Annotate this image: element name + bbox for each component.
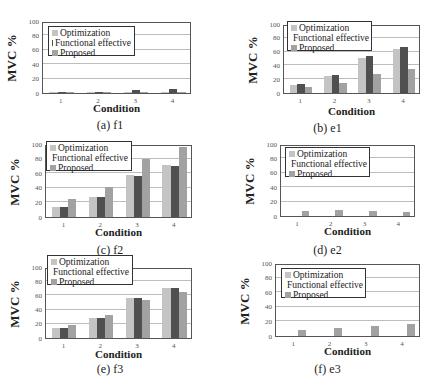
bar	[339, 83, 347, 93]
bar	[179, 292, 187, 338]
y-tick-label: 80	[24, 156, 42, 163]
legend-label: Optimization	[59, 257, 109, 267]
y-tick-label: 40	[21, 62, 39, 69]
y-tick-label: 20	[254, 319, 272, 326]
y-tick-label: 60	[262, 49, 280, 56]
bar	[97, 197, 105, 217]
legend-swatch-icon	[285, 272, 291, 278]
bar	[177, 92, 185, 94]
gridline	[43, 78, 190, 79]
bar	[305, 87, 313, 93]
y-tick-label: 0	[24, 215, 42, 222]
legend-item: Proposed	[50, 163, 128, 173]
legend-label: Functional effective	[287, 280, 363, 290]
bar	[87, 92, 95, 94]
legend-label: Proposed	[59, 277, 94, 287]
bar	[97, 318, 105, 338]
legend-swatch-icon	[50, 145, 56, 151]
legend: OptimizationFunctional effectiveProposed	[281, 268, 366, 298]
bar	[89, 197, 97, 217]
y-tick-label: 60	[21, 47, 39, 54]
legend-item: Optimization	[285, 270, 362, 280]
legend: OptimizationFunctional effectiveProposed	[47, 255, 133, 285]
gridline	[276, 306, 419, 307]
y-tick-label: 20	[259, 199, 277, 206]
bar	[134, 176, 142, 217]
y-tick-label: 60	[24, 293, 42, 300]
bar	[66, 92, 74, 94]
chart-caption: (d) e2	[218, 243, 437, 258]
legend-label: Optimization	[297, 149, 347, 159]
bar	[68, 325, 76, 338]
legend-swatch-icon	[52, 40, 53, 46]
legend-item: Optimization	[52, 28, 131, 38]
x-axis-label: Condition	[283, 105, 420, 117]
legend-label: Functional effective	[55, 38, 131, 48]
bar	[60, 328, 68, 338]
legend-swatch-icon	[291, 45, 297, 51]
bar	[179, 147, 187, 217]
y-tick-label: 20	[21, 76, 39, 83]
bar	[371, 326, 379, 336]
y-tick-label: 80	[254, 275, 272, 282]
y-tick-label: 100	[259, 142, 277, 149]
y-tick-label: 80	[21, 33, 39, 40]
bar	[142, 300, 150, 338]
legend-label: Optimization	[293, 270, 343, 280]
y-tick-label: 20	[262, 77, 280, 84]
bar	[335, 210, 342, 216]
bar	[52, 328, 60, 338]
bar	[302, 211, 309, 216]
bar	[297, 84, 305, 93]
y-tick-label: 100	[24, 142, 42, 149]
bar	[103, 92, 111, 94]
x-tick-label: 1	[294, 97, 306, 105]
y-tick-label: 100	[21, 19, 39, 26]
y-tick-label: 60	[254, 290, 272, 297]
y-tick-label: 60	[24, 171, 42, 178]
legend-item: Functional effective	[285, 280, 362, 290]
legend-item: Proposed	[52, 48, 131, 58]
bar	[332, 75, 340, 93]
y-axis-label: MVC %	[7, 274, 23, 334]
legend-label: Optimization	[60, 28, 110, 38]
legend-label: Proposed	[58, 163, 93, 173]
y-tick-label: 80	[259, 156, 277, 163]
bar	[132, 90, 140, 93]
legend: OptimizationFunctional effectiveProposed	[285, 147, 370, 177]
bar	[403, 212, 410, 216]
y-axis-label: MVC %	[237, 271, 253, 331]
bar	[290, 85, 298, 93]
y-tick-label: 0	[262, 91, 280, 98]
legend-item: Proposed	[291, 43, 368, 53]
gridline	[281, 201, 414, 202]
bar	[393, 49, 401, 93]
bar	[169, 89, 177, 93]
y-axis-label: MVC %	[242, 151, 258, 211]
bar	[58, 92, 66, 94]
bar	[89, 318, 97, 338]
legend-item: Optimization	[291, 23, 368, 33]
y-tick-label: 40	[24, 307, 42, 314]
bar	[366, 56, 374, 93]
bar	[95, 92, 103, 94]
bar	[105, 187, 113, 217]
x-axis-label: Condition	[45, 348, 192, 360]
y-tick-label: 0	[254, 334, 272, 341]
y-tick-label: 60	[259, 170, 277, 177]
legend-item: Functional effective	[51, 267, 129, 277]
y-tick-label: 100	[24, 265, 42, 272]
x-tick-label: 3	[363, 97, 375, 105]
y-tick-label: 40	[24, 185, 42, 192]
x-axis-label: Condition	[275, 345, 420, 357]
y-axis-label: MVC %	[245, 30, 261, 90]
legend-label: Optimization	[299, 23, 349, 33]
chart-caption: (f) e3	[218, 362, 437, 377]
legend-item: Optimization	[289, 149, 366, 159]
legend-swatch-icon	[52, 50, 58, 56]
x-tick-label: 4	[397, 97, 409, 105]
bar	[171, 288, 179, 338]
bar	[171, 166, 179, 217]
legend-item: Functional effective	[289, 159, 366, 169]
bar	[60, 207, 68, 217]
